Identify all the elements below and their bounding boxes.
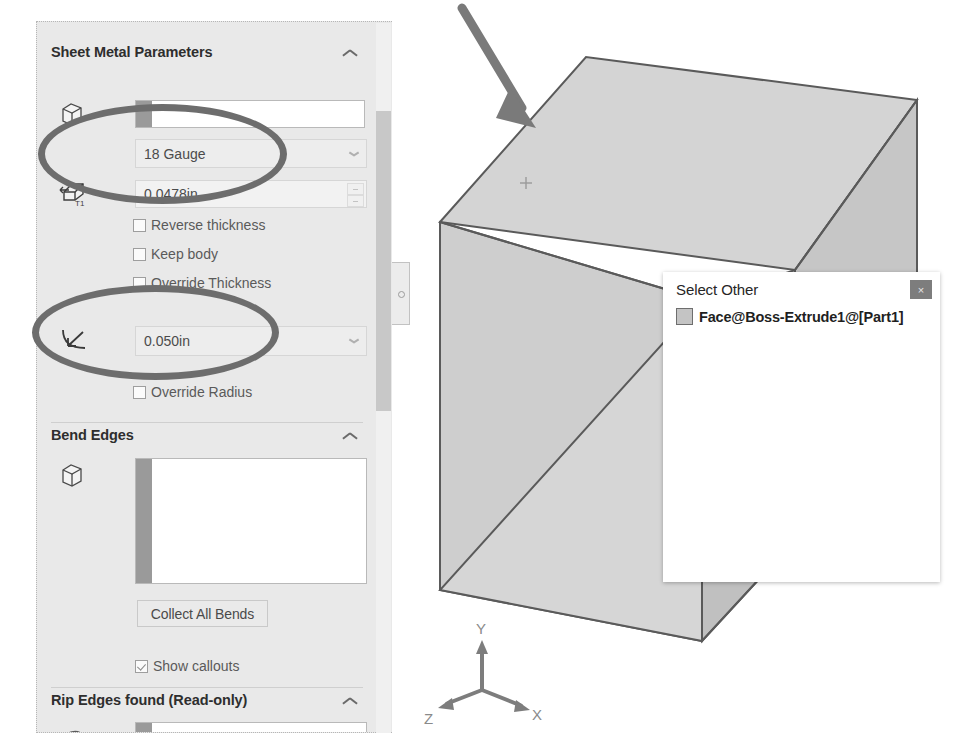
face-color-swatch [676, 308, 693, 325]
checkbox-box[interactable] [133, 219, 146, 232]
thickness-input[interactable]: 0.0478in [135, 180, 367, 208]
section-header-sheet-metal-parameters[interactable]: Sheet Metal Parameters [51, 40, 363, 64]
checkbox-label: Reverse thickness [151, 217, 265, 233]
gauge-table-combobox[interactable]: 18 Gauge [135, 139, 367, 168]
gauge-table-value: 18 Gauge [144, 146, 206, 162]
thickness-value: 0.0478in [144, 186, 198, 202]
checkbox-label: Override Radius [151, 384, 252, 400]
face-select-icon [57, 100, 91, 130]
property-manager-panel: Sheet Metal Parameters 18 Gauge [36, 21, 392, 733]
thickness-t1-icon: T1 [57, 178, 91, 208]
pointer-arrow [462, 8, 536, 128]
selection-stripe [136, 101, 152, 127]
checkbox-keep-body[interactable]: Keep body [133, 244, 218, 264]
bend-edges-listbox[interactable] [135, 458, 367, 584]
chevron-down-icon[interactable] [350, 152, 359, 157]
section-header-bend-edges[interactable]: Bend Edges [51, 422, 363, 446]
collect-all-bends-button[interactable]: Collect All Bends [137, 600, 268, 627]
property-manager-content: Sheet Metal Parameters 18 Gauge [37, 22, 377, 732]
chevron-down-icon[interactable] [350, 339, 359, 344]
checkbox-override-radius[interactable]: Override Radius [133, 382, 252, 402]
chevron-up-icon[interactable] [343, 46, 359, 58]
rip-edge-icon [59, 725, 93, 732]
panel-splitter-handle[interactable] [392, 262, 410, 325]
rip-edges-listbox[interactable] [135, 722, 367, 732]
section-title-sheet-metal-parameters: Sheet Metal Parameters [51, 44, 212, 60]
panel-scrollbar[interactable] [376, 23, 391, 733]
chevron-up-icon[interactable] [343, 694, 359, 706]
coordinate-triad: Y X Z [424, 620, 542, 727]
fixed-face-selection-listbox[interactable] [135, 100, 365, 128]
edge-select-icon [57, 462, 91, 492]
checkbox-show-callouts[interactable]: Show callouts [135, 656, 239, 676]
chevron-up-icon[interactable] [343, 429, 359, 441]
checkbox-label: Keep body [151, 246, 218, 262]
select-other-item-label: Face@Boss-Extrude1@[Part1] [699, 309, 903, 325]
section-title-bend-edges: Bend Edges [51, 427, 134, 443]
checkbox-label: Show callouts [153, 658, 239, 674]
checkbox-override-thickness[interactable]: Override Thickness [133, 273, 271, 293]
svg-text:T1: T1 [75, 199, 85, 208]
triad-label-y: Y [476, 620, 486, 637]
checkbox-label: Override Thickness [151, 275, 271, 291]
spinner-down[interactable] [347, 195, 364, 207]
bend-radius-value: 0.050in [144, 333, 190, 349]
thickness-spinner[interactable] [347, 183, 364, 209]
selection-stripe [136, 723, 152, 732]
selection-stripe [136, 459, 152, 583]
section-header-rip-edges[interactable]: Rip Edges found (Read-only) [51, 687, 363, 711]
section-title-rip-edges: Rip Edges found (Read-only) [51, 692, 247, 708]
checkbox-box[interactable] [133, 248, 146, 261]
select-other-title: Select Other [676, 281, 758, 298]
spinner-up[interactable] [347, 183, 364, 195]
bend-radius-icon [59, 324, 93, 354]
panel-scrollbar-thumb[interactable] [376, 111, 391, 411]
bend-radius-combobox[interactable]: 0.050in [135, 326, 367, 356]
select-other-dialog[interactable]: Select Other × Face@Boss-Extrude1@[Part1… [663, 272, 940, 582]
checkbox-box[interactable] [133, 277, 146, 290]
checkbox-box[interactable] [135, 660, 148, 673]
checkbox-reverse-thickness[interactable]: Reverse thickness [133, 215, 265, 235]
select-other-list-item[interactable]: Face@Boss-Extrude1@[Part1] [676, 308, 903, 325]
collect-all-bends-label: Collect All Bends [151, 606, 254, 622]
close-icon[interactable]: × [910, 280, 932, 299]
triad-label-z: Z [424, 710, 433, 727]
checkbox-box[interactable] [133, 386, 146, 399]
triad-label-x: X [532, 706, 542, 723]
